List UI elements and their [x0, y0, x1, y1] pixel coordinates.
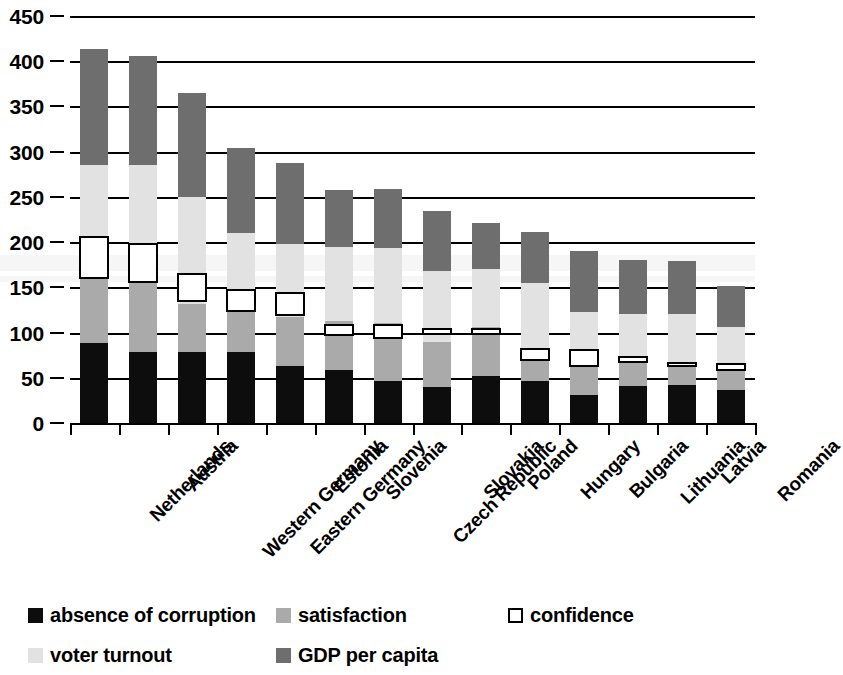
bar-segment-GDP-per-capita [374, 189, 402, 249]
bar-segment-GDP-per-capita [129, 56, 157, 165]
confidence-marker [422, 328, 452, 335]
legend-item-label: satisfaction [298, 605, 407, 625]
bar-segment-voter-turnout [472, 269, 500, 327]
bar-segment-absence-of-corruption [717, 390, 745, 423]
y-axis-tick-mark [50, 286, 64, 288]
bar-segment-GDP-per-capita [276, 163, 304, 243]
bar-segment-voter-turnout [619, 314, 647, 360]
bar-segment-GDP-per-capita [227, 148, 255, 233]
bar-segment-satisfaction [129, 276, 157, 353]
medium-gray-square-icon [276, 608, 291, 623]
chart-legend: absence of corruptionsatisfactionconfide… [28, 605, 728, 673]
y-axis-tick-label: 350 [10, 96, 44, 117]
legend-item-label: GDP per capita [298, 645, 438, 665]
bar-segment-voter-turnout [717, 327, 745, 367]
bar-segment-absence-of-corruption [325, 370, 353, 423]
x-axis-tick-mark [266, 423, 268, 435]
y-axis-tick-mark [50, 196, 64, 198]
stacked-bar[interactable] [276, 163, 304, 423]
bar-slot [315, 16, 364, 423]
stacked-bar[interactable] [472, 223, 500, 423]
bar-segment-GDP-per-capita [325, 190, 353, 247]
stacked-bar[interactable] [570, 251, 598, 423]
bar-segment-absence-of-corruption [374, 381, 402, 423]
bar-segment-absence-of-corruption [668, 385, 696, 423]
y-axis-tick-mark [50, 332, 64, 334]
bar-segment-satisfaction [668, 365, 696, 385]
legend-item[interactable]: voter turnout [28, 645, 172, 665]
confidence-marker [177, 273, 207, 302]
confidence-marker [520, 348, 550, 361]
y-axis-tick-label: 250 [10, 186, 44, 207]
y-axis-tick-label: 300 [10, 141, 44, 162]
stacked-bar[interactable] [423, 211, 451, 423]
stacked-bar[interactable] [717, 286, 745, 423]
y-axis-tick-label: 50 [21, 367, 44, 388]
stacked-bar[interactable] [227, 148, 255, 423]
x-axis-tick-mark [217, 423, 219, 435]
confidence-marker [128, 243, 158, 283]
legend-item[interactable]: confidence [508, 605, 634, 625]
legend-item-label: voter turnout [50, 645, 172, 665]
x-axis-tick-mark [657, 423, 659, 435]
confidence-marker [471, 328, 501, 335]
confidence-marker [569, 349, 599, 367]
y-axis-tick-label: 0 [33, 413, 44, 434]
bar-slot [559, 16, 608, 423]
bar-slot [217, 16, 266, 423]
confidence-marker [618, 356, 648, 363]
legend-item[interactable]: GDP per capita [276, 645, 438, 665]
bar-segment-GDP-per-capita [521, 232, 549, 283]
y-axis-tick-mark [50, 241, 64, 243]
legend-item[interactable]: absence of corruption [28, 605, 256, 625]
bar-segment-satisfaction [276, 317, 304, 366]
stacked-bar[interactable] [80, 49, 108, 423]
bar-slot [119, 16, 168, 423]
x-axis-tick-mark [119, 423, 121, 435]
y-axis-tick-label: 450 [10, 6, 44, 27]
plot-area [70, 16, 755, 423]
bar-segment-absence-of-corruption [227, 352, 255, 423]
y-axis-tick-label: 150 [10, 277, 44, 298]
bar-segment-absence-of-corruption [619, 386, 647, 423]
bar-segment-GDP-per-capita [668, 261, 696, 314]
stacked-bar[interactable] [325, 190, 353, 423]
bar-segment-satisfaction [570, 366, 598, 395]
x-axis-tick-mark [608, 423, 610, 435]
bar-segment-satisfaction [178, 304, 206, 352]
bar-segment-absence-of-corruption [276, 366, 304, 423]
x-axis-tick-mark [755, 423, 757, 435]
stacked-bar[interactable] [521, 232, 549, 423]
y-axis-tick-mark [50, 422, 64, 424]
bar-slot [461, 16, 510, 423]
x-axis-tick-mark [706, 423, 708, 435]
bar-segment-GDP-per-capita [472, 223, 500, 269]
x-axis-tick-mark [559, 423, 561, 435]
x-axis-tick-mark [461, 423, 463, 435]
bar-segment-voter-turnout [374, 248, 402, 322]
stacked-bar[interactable] [619, 260, 647, 423]
confidence-marker [226, 289, 256, 312]
bar-slot [608, 16, 657, 423]
confidence-marker [275, 292, 305, 316]
stacked-bar[interactable] [374, 189, 402, 423]
y-axis: 450400350300250200150100500 [0, 0, 66, 440]
bar-slot [266, 16, 315, 423]
y-axis-tick-label: 400 [10, 51, 44, 72]
bar-segment-GDP-per-capita [80, 49, 108, 166]
white-outline-square-icon [508, 608, 523, 623]
bar-segment-voter-turnout [325, 247, 353, 321]
bar-segment-absence-of-corruption [521, 381, 549, 423]
stacked-bar[interactable] [129, 56, 157, 423]
x-axis-tick-mark [510, 423, 512, 435]
bar-slot [510, 16, 559, 423]
x-axis-tick-mark [315, 423, 317, 435]
bar-slot [70, 16, 119, 423]
x-axis-tick-mark [70, 423, 72, 435]
stacked-bar[interactable] [668, 261, 696, 423]
bar-slot [168, 16, 217, 423]
stacked-bar[interactable] [178, 93, 206, 423]
bar-slot [706, 16, 755, 423]
legend-item[interactable]: satisfaction [276, 605, 407, 625]
